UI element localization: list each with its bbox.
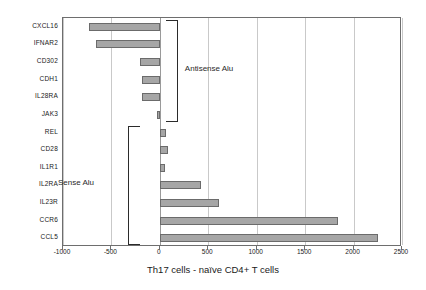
plot-area bbox=[62, 17, 401, 246]
x-tick-mark bbox=[353, 246, 354, 250]
y-axis-label-il23r: IL23R bbox=[0, 198, 58, 205]
y-axis-label-rel: REL bbox=[0, 128, 58, 135]
x-tick-mark bbox=[304, 246, 305, 250]
y-axis-label-il1r1: IL1R1 bbox=[0, 163, 58, 170]
y-axis-label-cdh1: CDH1 bbox=[0, 75, 58, 82]
bar bbox=[89, 23, 160, 31]
x-axis-ticks: -1000-50005001000150020002500 bbox=[0, 248, 426, 262]
bar bbox=[157, 111, 160, 119]
sense-alu-label: Sense Alu bbox=[58, 178, 94, 187]
y-axis-label-cxcl16: CXCL16 bbox=[0, 22, 58, 29]
x-tick-mark bbox=[256, 246, 257, 250]
bar bbox=[140, 58, 159, 66]
x-axis-title: Th17 cells - naïve CD4+ T cells bbox=[0, 264, 426, 275]
bar bbox=[96, 40, 160, 48]
bar bbox=[142, 93, 159, 101]
antisense-alu-bracket bbox=[166, 20, 178, 122]
y-axis-label-ccr6: CCR6 bbox=[0, 216, 58, 223]
bar bbox=[160, 234, 378, 242]
gridline bbox=[111, 18, 112, 245]
y-axis-label-il2ra: IL2RA bbox=[0, 180, 58, 187]
y-axis-label-ccl5: CCL5 bbox=[0, 233, 58, 240]
x-tick-mark bbox=[207, 246, 208, 250]
bar bbox=[160, 129, 166, 137]
y-axis-label-jak3: JAK3 bbox=[0, 110, 58, 117]
antisense-alu-label: Antisense Alu bbox=[185, 64, 233, 73]
gridline bbox=[257, 18, 258, 245]
sense-alu-bracket bbox=[128, 126, 140, 245]
gridline bbox=[354, 18, 355, 245]
bar bbox=[160, 181, 201, 189]
x-tick-mark bbox=[401, 246, 402, 250]
y-axis-label-il28ra: IL28RA bbox=[0, 92, 58, 99]
bar bbox=[160, 164, 165, 172]
gridline bbox=[63, 18, 64, 245]
y-axis-label-cd302: CD302 bbox=[0, 57, 58, 64]
bar bbox=[142, 76, 159, 84]
x-tick-mark bbox=[110, 246, 111, 250]
gridline bbox=[402, 18, 403, 245]
bar bbox=[160, 146, 168, 154]
bar bbox=[160, 199, 219, 207]
gridline bbox=[305, 18, 306, 245]
y-axis-labels: CXCL16IFNAR2CD302CDH1IL28RAJAK3RELCD28IL… bbox=[0, 17, 58, 246]
x-tick-mark bbox=[159, 246, 160, 250]
y-axis-label-ifnar2: IFNAR2 bbox=[0, 39, 58, 46]
x-tick-mark bbox=[62, 246, 63, 250]
bar bbox=[160, 217, 338, 225]
gridline bbox=[208, 18, 209, 245]
y-axis-label-cd28: CD28 bbox=[0, 145, 58, 152]
bar-chart: CXCL16IFNAR2CD302CDH1IL28RAJAK3RELCD28IL… bbox=[0, 0, 426, 290]
